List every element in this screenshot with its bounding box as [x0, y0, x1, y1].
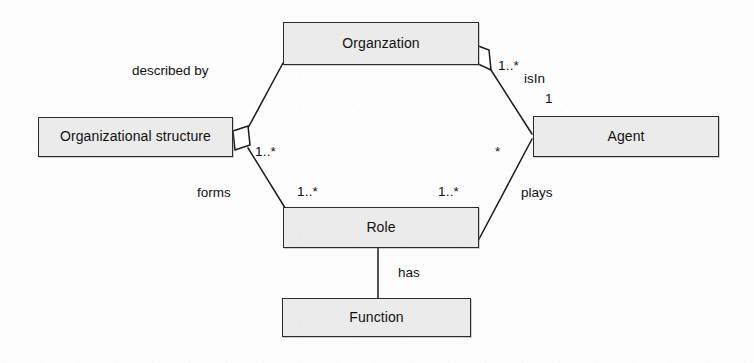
multiplicity-agent-to-role-agent-side: *	[495, 145, 500, 159]
class-label-organizational-structure: Organizational structure	[60, 129, 211, 144]
multiplicity-organization-to-agent-agent-side: 1	[545, 92, 553, 106]
class-label-function: Function	[349, 310, 404, 325]
edge-label-forms: forms	[197, 186, 231, 200]
aggregation-diamond-structure	[233, 126, 250, 150]
class-box-agent[interactable]: Agent	[533, 116, 719, 157]
multiplicity-structure-side: 1..*	[255, 145, 276, 159]
edge-label-plays: plays	[521, 186, 553, 200]
edge-label-is-in: isIn	[524, 72, 545, 86]
class-box-organization[interactable]: Organzation	[283, 22, 479, 65]
multiplicity-organization-to-agent-org-side: 1..*	[498, 59, 519, 73]
uml-diagram-canvas: Organzation Organizational structure Age…	[0, 0, 754, 363]
edge-label-has: has	[398, 266, 420, 280]
class-label-agent: Agent	[607, 129, 644, 144]
class-box-organizational-structure[interactable]: Organizational structure	[38, 117, 233, 157]
edge-label-described-by: described by	[132, 64, 209, 78]
multiplicity-role-left: 1..*	[297, 185, 318, 199]
class-label-organization: Organzation	[342, 36, 419, 51]
class-label-role: Role	[366, 220, 395, 235]
class-box-function[interactable]: Function	[282, 298, 471, 337]
class-box-role[interactable]: Role	[283, 207, 479, 248]
multiplicity-role-right: 1..*	[438, 185, 459, 199]
edge-structure-to-organization	[248, 63, 283, 128]
